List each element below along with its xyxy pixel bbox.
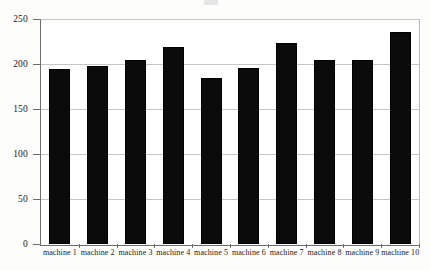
x-tick-label: machine 7 xyxy=(268,248,306,257)
bar[interactable] xyxy=(276,43,297,244)
bar-slot xyxy=(49,19,70,244)
x-tick-mark xyxy=(381,244,382,248)
bar[interactable] xyxy=(352,60,373,245)
bar-slot xyxy=(276,19,297,244)
x-tick-mark xyxy=(306,244,307,248)
y-tick-label: 100 xyxy=(13,149,28,159)
x-tick-mark xyxy=(419,244,420,248)
bar[interactable] xyxy=(49,69,70,245)
y-tick-label: 150 xyxy=(13,104,28,114)
bar-slot xyxy=(163,19,184,244)
x-tick-label: machine 2 xyxy=(79,248,117,257)
bar[interactable] xyxy=(163,47,184,244)
bar[interactable] xyxy=(201,78,222,245)
x-tick-mark xyxy=(79,244,80,248)
bar-slot xyxy=(201,19,222,244)
x-tick-label: machine 6 xyxy=(230,248,268,257)
y-tick-label: 250 xyxy=(13,14,28,24)
y-tick-label: 200 xyxy=(13,59,28,69)
bar-slot xyxy=(390,19,411,244)
bar-slot xyxy=(238,19,259,244)
scan-artifact xyxy=(204,0,218,5)
bar[interactable] xyxy=(314,60,335,245)
x-tick-label: machine 8 xyxy=(306,248,344,257)
x-tick-label: machine 1 xyxy=(41,248,79,257)
x-tick-mark xyxy=(343,244,344,248)
x-tick-label: machine 9 xyxy=(343,248,381,257)
y-tick-mark xyxy=(33,109,40,110)
y-tick-mark xyxy=(33,64,40,65)
bar-slot xyxy=(352,19,373,244)
x-tick-label: machine 10 xyxy=(381,248,419,257)
x-tick-mark xyxy=(154,244,155,248)
x-tick-label: machine 4 xyxy=(154,248,192,257)
bar-slot xyxy=(87,19,108,244)
y-tick-label: 50 xyxy=(18,194,28,204)
x-axis: machine 1machine 2machine 3machine 4mach… xyxy=(41,248,419,268)
bar-slot xyxy=(125,19,146,244)
bar[interactable] xyxy=(238,68,259,244)
y-tick-mark xyxy=(33,199,40,200)
y-tick-mark xyxy=(33,154,40,155)
y-tick-label: 0 xyxy=(23,239,28,249)
bar[interactable] xyxy=(390,32,411,244)
x-tick-mark xyxy=(192,244,193,248)
y-tick-mark xyxy=(33,19,40,20)
bar[interactable] xyxy=(125,60,146,245)
x-tick-mark xyxy=(268,244,269,248)
x-tick-mark xyxy=(117,244,118,248)
x-tick-label: machine 3 xyxy=(117,248,155,257)
x-tick-mark xyxy=(230,244,231,248)
y-axis: 050100150200250 xyxy=(0,0,40,271)
bar[interactable] xyxy=(87,66,108,244)
y-tick-mark xyxy=(33,244,40,245)
bar-slot xyxy=(314,19,335,244)
x-tick-label: machine 5 xyxy=(192,248,230,257)
bars-group xyxy=(41,19,419,244)
bar-chart-figure: 050100150200250 machine 1machine 2machin… xyxy=(0,0,430,271)
